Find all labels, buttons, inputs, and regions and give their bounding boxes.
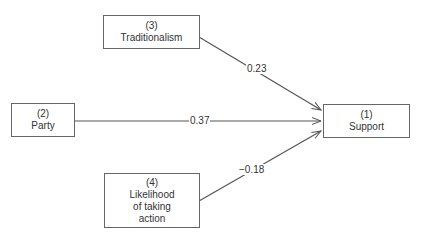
node-party: (2) Party	[11, 103, 75, 137]
node-number: (3)	[145, 20, 157, 32]
node-number: (4)	[146, 177, 158, 189]
coefficient-likelihood: −0.18	[238, 164, 265, 175]
node-label: Traditionalism	[121, 32, 183, 44]
node-label: Party	[31, 120, 54, 132]
node-number: (2)	[37, 108, 49, 120]
node-traditionalism: (3) Traditionalism	[103, 15, 200, 49]
node-label: Support	[349, 121, 384, 133]
node-likelihood-of-taking-action: (4) Likelihood of taking action	[104, 173, 200, 228]
node-support: (1) Support	[323, 104, 410, 138]
node-label: Likelihood of taking action	[129, 189, 174, 225]
coefficient-party: 0.37	[189, 115, 210, 126]
node-number: (1)	[360, 109, 372, 121]
coefficient-traditionalism: 0.23	[246, 63, 267, 74]
